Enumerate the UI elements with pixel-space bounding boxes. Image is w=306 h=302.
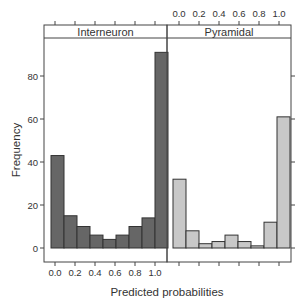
strip-label: Pyramidal [205, 26, 254, 38]
x-tick-label: 0.4 [88, 267, 101, 278]
histogram-bar [77, 227, 90, 249]
histogram-bar [90, 235, 103, 248]
y-tick-label: 80 [27, 71, 38, 82]
x-tick-label-top: 0.0 [172, 8, 185, 19]
chart-canvas: Interneuron0.00.20.40.60.81.0020406080Py… [0, 0, 306, 302]
x-tick-label: 1.0 [148, 267, 161, 278]
panels-group: Interneuron0.00.20.40.60.81.0020406080Py… [27, 8, 295, 278]
histogram-bar [199, 244, 212, 248]
histogram-bar [277, 117, 290, 248]
x-tick-label-top: 0.2 [192, 8, 205, 19]
histogram-bar [103, 239, 116, 248]
histogram-bar [129, 227, 142, 249]
histogram-bar [173, 179, 186, 248]
panel-interneuron: Interneuron0.00.20.40.60.81.0020406080 [27, 21, 168, 278]
histogram-bar [142, 218, 155, 248]
histogram-bar [251, 246, 264, 248]
strip-label: Interneuron [77, 26, 133, 38]
histogram-bar [264, 222, 277, 248]
x-tick-label-top: 1.0 [272, 8, 285, 19]
y-tick-label: 60 [27, 114, 38, 125]
x-tick-label: 0.8 [128, 267, 141, 278]
histogram-bar [238, 242, 251, 248]
histogram-bar [116, 235, 129, 248]
x-tick-label-top: 0.6 [232, 8, 245, 19]
y-tick-label: 20 [27, 200, 38, 211]
histogram-bar [186, 231, 199, 248]
y-tick-label: 40 [27, 157, 38, 168]
y-tick-label: 0 [33, 243, 38, 254]
x-tick-label-top: 0.4 [212, 8, 225, 19]
x-axis-label: Predicted probabilities [110, 286, 223, 298]
x-tick-label-top: 0.8 [252, 8, 265, 19]
x-tick-label: 0.0 [48, 267, 61, 278]
histogram-bar [225, 235, 238, 248]
histogram-bar [64, 216, 77, 248]
x-tick-label: 0.6 [108, 267, 121, 278]
histogram-bar [212, 242, 225, 248]
x-tick-label: 0.2 [68, 267, 81, 278]
y-axis-label: Frequency [10, 123, 22, 178]
histogram-bar [155, 52, 168, 248]
panel-pyramidal: Pyramidal0.00.20.40.60.81.0 [167, 8, 295, 266]
histogram-bar [51, 156, 64, 248]
